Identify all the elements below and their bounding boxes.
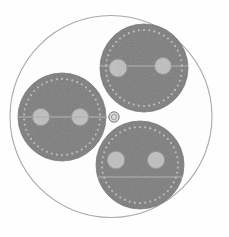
screen-dot [115, 93, 117, 95]
screen-dot [123, 34, 125, 36]
screen-dot [176, 172, 178, 174]
screen-dot [99, 113, 101, 115]
center-filler-outer [109, 112, 119, 122]
conductor-bottom-a [107, 151, 125, 169]
conductor-top-b [155, 58, 172, 75]
screen-dot [61, 78, 63, 80]
screen-dot [177, 49, 179, 51]
screen-dot [163, 193, 165, 195]
screen-dot [163, 34, 165, 36]
screen-dot [174, 89, 176, 91]
screen-dot [153, 104, 155, 106]
screen-dot [95, 98, 97, 100]
screen-dot [173, 181, 175, 183]
screen-dot [66, 154, 68, 156]
screen-dot [158, 102, 160, 104]
screen-dot [98, 108, 100, 110]
screen-dot [66, 78, 68, 80]
screen-dot [119, 37, 121, 39]
screen-dot [170, 186, 172, 188]
screen-dot [123, 99, 125, 101]
screen-dot [71, 153, 73, 155]
screen-dot [61, 154, 63, 156]
screen-dot [124, 129, 126, 131]
screen-dot [177, 161, 179, 163]
screen-dot [138, 29, 140, 31]
screen-dot [85, 145, 87, 147]
screen-dot [85, 86, 87, 88]
screen-dot [149, 127, 151, 129]
cable-cross-section-diagram [0, 0, 229, 237]
screen-dot [112, 89, 114, 91]
screen-dot [181, 70, 183, 72]
screen-dot [101, 161, 103, 163]
screen-dot [159, 196, 161, 198]
screen-dot [149, 201, 151, 203]
screen-dot [171, 41, 173, 43]
screen-dot [144, 202, 146, 204]
screen-dot [105, 70, 107, 72]
screen-dot [76, 81, 78, 83]
screen-dot [105, 181, 107, 183]
screen-dot [37, 145, 39, 147]
screen-dot [108, 142, 110, 144]
screen-dot [24, 108, 26, 110]
screen-dot [97, 103, 99, 105]
screen-dot [92, 138, 94, 140]
screen-dot [119, 196, 121, 198]
screen-dot [115, 193, 117, 195]
screen-dot [81, 148, 83, 150]
screen-dot [163, 134, 165, 136]
screen-dot [139, 202, 141, 204]
screen-dot [41, 83, 43, 85]
screen-dot [92, 94, 94, 96]
screen-dot [30, 94, 32, 96]
screen-dot [76, 151, 78, 153]
screen-dot [109, 49, 111, 51]
screen-dot [99, 119, 101, 121]
screen-dot [143, 29, 145, 31]
center-filler-group [109, 112, 119, 122]
conductor-bottom-b [147, 151, 164, 168]
screen-dot [27, 133, 29, 135]
core-top-right [100, 24, 188, 112]
screen-dot [119, 131, 121, 133]
screen-dot [46, 81, 48, 83]
screen-dot [158, 32, 160, 34]
screen-dot [102, 172, 104, 174]
screen-dot [46, 151, 48, 153]
screen-dot [33, 90, 35, 92]
screen-dot [134, 202, 136, 204]
screen-dot [148, 105, 150, 107]
screen-dot [89, 142, 91, 144]
screen-dot [109, 84, 111, 86]
screen-dot [111, 190, 113, 192]
figure-canvas [0, 0, 229, 237]
screen-dot [27, 98, 29, 100]
screen-dot [170, 142, 172, 144]
screen-dot [180, 59, 182, 61]
screen-dot [106, 59, 108, 61]
screen-dot [167, 37, 169, 39]
screen-dot [115, 41, 117, 43]
screen-dot [133, 104, 135, 106]
core-bottom-right [96, 121, 184, 209]
screen-dot [134, 126, 136, 128]
screen-dot [23, 119, 25, 121]
screen-dot [148, 29, 150, 31]
screen-dot [81, 83, 83, 85]
screen-dot [98, 124, 100, 126]
screen-dot [107, 54, 109, 56]
screen-dot [167, 138, 169, 140]
screen-dot [179, 54, 181, 56]
screen-dot [97, 129, 99, 131]
screen-dot [25, 129, 27, 131]
screen-dot [105, 146, 107, 148]
screen-dot [129, 201, 131, 203]
screen-dot [167, 190, 169, 192]
screen-dot [33, 142, 35, 144]
screen-dot [180, 75, 182, 77]
screen-dot [37, 86, 39, 88]
screen-dot [167, 96, 169, 98]
screen-dot [154, 129, 156, 131]
